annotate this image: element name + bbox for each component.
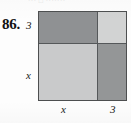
problem-number: 86. xyxy=(2,16,20,32)
region-top-right xyxy=(98,12,126,44)
dimension-label-bottom-right: 3 xyxy=(110,104,116,115)
partitioned-square xyxy=(38,11,127,101)
scan-artifact-text: ··· □ ······· xyxy=(28,0,90,5)
region-top-left xyxy=(39,12,98,44)
region-bottom-right xyxy=(98,44,126,100)
figure-screenshot: ··· □ ······· 86. 3 x x 3 xyxy=(0,0,131,123)
region-bottom-left xyxy=(39,44,98,100)
dimension-label-left-bottom: x xyxy=(26,70,31,81)
area-model-figure xyxy=(38,11,127,101)
dimension-label-bottom-left: x xyxy=(61,104,66,115)
dimension-label-left-top: 3 xyxy=(26,20,32,31)
